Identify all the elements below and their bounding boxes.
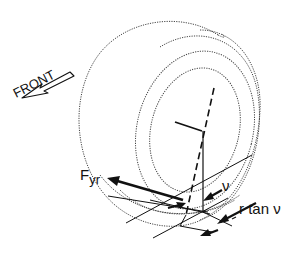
tire-sidewall-inner [200, 30, 260, 220]
offset-label: r tan ν [239, 200, 281, 217]
ground-line-2 [153, 198, 228, 238]
angle-indicator [203, 190, 222, 201]
front-direction-indicator: FRONT [11, 67, 74, 101]
angle-label: ν [222, 177, 230, 194]
force-arrowhead-icon [107, 176, 120, 186]
angle-arrowhead-icon [203, 192, 214, 201]
offset-arrowhead-1-icon [217, 214, 229, 224]
spindle-axis [175, 122, 202, 131]
lateral-force-arrow [107, 176, 186, 209]
tire-sidewall-outer [160, 36, 259, 218]
tire-force-diagram: FRONT Fyr [0, 0, 295, 253]
rim-inner [137, 58, 253, 202]
force-label: Fyr [80, 166, 101, 187]
tire-outline [79, 21, 271, 226]
tire-outer-tread [79, 21, 218, 226]
